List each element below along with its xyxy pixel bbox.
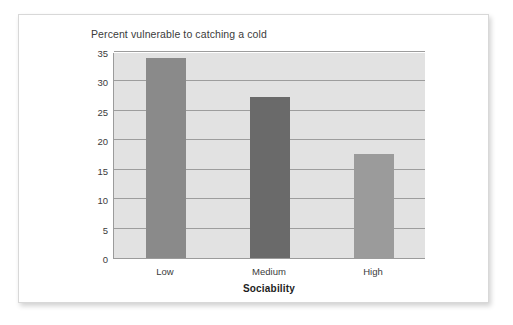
y-tick-label: 25	[97, 106, 108, 117]
bar-medium	[250, 97, 290, 258]
bar-high	[354, 154, 394, 258]
y-tick-label: 30	[97, 77, 108, 88]
plot-area	[113, 53, 425, 259]
y-tick-label: 20	[97, 136, 108, 147]
chart-title: Percent vulnerable to catching a cold	[91, 28, 267, 40]
x-axis-title: Sociability	[113, 283, 425, 294]
y-tick-label: 15	[97, 165, 108, 176]
x-tick-label-high: High	[363, 266, 383, 277]
x-tick-label-medium: Medium	[252, 266, 286, 277]
gridline	[114, 51, 425, 52]
bar-low	[146, 58, 186, 258]
y-tick-label: 5	[103, 224, 108, 235]
y-tick-label: 0	[103, 254, 108, 265]
y-tick-label: 10	[97, 195, 108, 206]
screenshot-page: Percent vulnerable to catching a cold 05…	[0, 0, 513, 325]
bar-chart: 05101520253035 LowMediumHigh Sociability	[91, 53, 425, 259]
y-tick-label: 35	[97, 48, 108, 59]
figure-card: Percent vulnerable to catching a cold 05…	[18, 14, 489, 303]
x-tick-label-low: Low	[156, 266, 173, 277]
